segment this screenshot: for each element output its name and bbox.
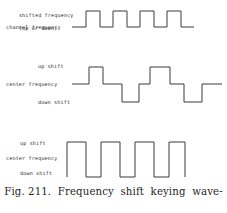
label-shifted-frequency-line1: shifted frequency — [19, 12, 74, 18]
waveform-trace-1 — [72, 11, 194, 27]
waveform-panel-slow-shift — [72, 62, 222, 108]
label-channel-frequency: channel frequency — [6, 24, 61, 31]
waveform-trace-2 — [72, 67, 222, 102]
waveform-trace-3 — [67, 142, 185, 177]
label-down-shift-fast: down shift — [20, 170, 52, 177]
label-center-frequency-fast: center frequency — [6, 155, 57, 162]
figure-caption: Fig. 211. Frequency shift keying wave- — [0, 186, 227, 197]
waveform-panel-shifted-frequency — [72, 6, 194, 32]
label-down-shift-slow: down shift — [38, 99, 70, 106]
label-shifted-frequency: shifted frequency (up or down) — [6, 5, 74, 38]
figure-root: shifted frequency (up or down) channel f… — [0, 0, 227, 213]
label-center-frequency-slow: center frequency — [6, 81, 57, 88]
waveform-panel-fast-shift — [65, 139, 191, 181]
label-up-shift-slow: up shift — [38, 63, 64, 70]
label-up-shift-fast: up shift — [20, 140, 46, 147]
